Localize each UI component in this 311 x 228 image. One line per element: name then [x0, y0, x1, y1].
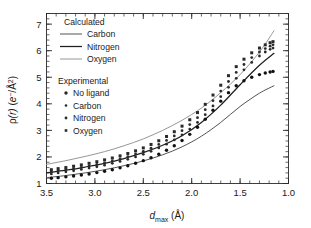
- data-point: [173, 130, 176, 133]
- x-tick-label: 2.5: [137, 187, 150, 198]
- data-point: [204, 118, 207, 121]
- data-point: [103, 158, 106, 161]
- data-point: [196, 121, 199, 124]
- chart-canvas: 3.53.02.52.01.51.0 1234567 dmax (Å) ρ(r)…: [0, 0, 311, 228]
- legend-label-calculated-carbon: Carbon: [87, 29, 115, 39]
- data-point: [212, 99, 215, 102]
- y-tick-label: 2: [36, 151, 41, 162]
- data-point: [272, 40, 275, 43]
- data-point: [72, 174, 75, 177]
- data-point: [219, 95, 222, 98]
- data-point: [258, 55, 261, 58]
- data-point: [235, 77, 238, 80]
- data-point: [80, 173, 83, 176]
- data-point: [149, 156, 152, 159]
- legend-marker-carbon: [65, 104, 68, 107]
- data-point: [272, 43, 275, 46]
- data-point: [243, 68, 246, 71]
- data-point: [119, 154, 122, 157]
- data-point: [111, 168, 114, 171]
- data-point: [50, 176, 53, 179]
- y-axis-tick-labels: 1234567: [36, 19, 41, 189]
- data-point: [88, 162, 91, 165]
- y-axis-title-slash: /Å: [6, 83, 18, 93]
- data-point: [134, 162, 137, 165]
- data-point: [258, 73, 261, 76]
- data-point: [264, 71, 267, 74]
- data-point: [188, 133, 191, 136]
- data-point: [235, 65, 238, 68]
- data-point: [181, 133, 184, 136]
- data-point: [204, 108, 207, 111]
- data-point: [269, 41, 272, 44]
- data-point: [50, 173, 53, 176]
- data-point: [157, 153, 160, 156]
- y-axis-ticks: [47, 14, 289, 184]
- x-tick-label: 3.5: [40, 187, 53, 198]
- data-point: [134, 153, 137, 156]
- data-point: [271, 70, 274, 73]
- legend-label-calculated-nitrogen: Nitrogen: [87, 42, 120, 52]
- legend-calculated-items: CarbonNitrogenOxygen: [60, 29, 120, 64]
- legend-marker-nitrogen: [65, 117, 68, 120]
- data-point: [219, 84, 222, 87]
- data-point: [212, 94, 215, 97]
- y-axis-title-r: (r): [7, 108, 18, 118]
- data-point: [142, 153, 145, 156]
- data-point: [165, 139, 168, 142]
- data-point: [95, 165, 98, 168]
- data-point: [88, 167, 91, 170]
- y-tick-label: 6: [36, 45, 41, 56]
- data-point: [250, 51, 253, 54]
- x-axis-title: dmax (Å): [150, 209, 185, 223]
- data-point: [250, 56, 253, 59]
- data-point: [219, 90, 222, 93]
- data-point: [188, 118, 191, 121]
- data-point: [227, 86, 230, 89]
- data-point: [196, 125, 199, 128]
- data-point: [269, 45, 272, 48]
- data-point: [103, 170, 106, 173]
- data-point: [87, 172, 90, 175]
- data-point: [173, 144, 176, 147]
- data-point: [150, 143, 153, 146]
- chart-legend: Calculated CarbonNitrogenOxygen Experime…: [58, 17, 120, 136]
- data-point: [126, 164, 129, 167]
- data-point: [157, 143, 160, 146]
- y-tick-label: 3: [36, 125, 41, 136]
- data-point: [269, 48, 272, 51]
- legend-label-experimental-oxygen: Oxygen: [73, 126, 103, 136]
- data-point: [180, 139, 183, 142]
- data-point: [250, 61, 253, 64]
- data-point: [111, 162, 114, 165]
- data-point: [264, 43, 267, 46]
- data-point: [181, 125, 184, 128]
- data-point: [196, 116, 199, 119]
- data-point: [134, 149, 137, 152]
- y-tick-label: 7: [36, 19, 41, 30]
- y-axis-title-close: ): [7, 76, 18, 79]
- data-point: [126, 158, 129, 161]
- y-axis-title: ρ(r) (e−/Å2): [6, 76, 18, 124]
- data-point: [142, 146, 145, 149]
- legend-label-experimental-nitrogen: Nitrogen: [73, 113, 106, 123]
- legend-marker-oxygen: [65, 129, 68, 132]
- data-point: [165, 135, 168, 138]
- data-point: [95, 163, 98, 166]
- data-point: [211, 108, 214, 111]
- plot-frame: [47, 14, 289, 184]
- data-point: [64, 175, 67, 178]
- legend-marker-no-ligand: [64, 91, 67, 94]
- data-point: [258, 47, 261, 50]
- data-point: [118, 166, 121, 169]
- data-point: [119, 157, 122, 160]
- data-point: [227, 91, 230, 94]
- data-point: [150, 150, 153, 153]
- legend-experimental-items: No ligandCarbonNitrogenOxygen: [64, 88, 109, 136]
- x-axis-title-unit: (Å): [171, 209, 184, 221]
- data-point: [64, 170, 67, 173]
- data-point: [258, 51, 261, 54]
- x-tick-label: 1.5: [233, 187, 246, 198]
- data-point: [173, 139, 176, 142]
- y-tick-label: 4: [36, 98, 41, 109]
